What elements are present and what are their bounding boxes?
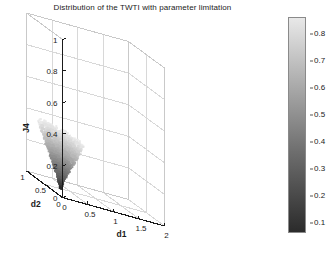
colorbar-tick: 0.8 — [314, 29, 325, 38]
colorbar-tick: 0.7 — [314, 56, 325, 65]
colorbar-tick-labels: 0.80.70.60.50.40.30.20.1 — [308, 17, 333, 233]
svg-text:0: 0 — [62, 203, 67, 212]
matlab-figure-window: Distribution of the TWTI with parameter … — [0, 0, 333, 264]
svg-text:0.2: 0.2 — [46, 162, 58, 171]
colorbar-tick: 0.2 — [314, 191, 325, 200]
colorbar-gradient — [288, 17, 306, 233]
svg-text:1: 1 — [113, 217, 118, 226]
svg-text:0: 0 — [56, 200, 61, 209]
colorbar-tick-mark — [310, 33, 313, 34]
colorbar-tick-mark — [310, 87, 313, 88]
axes-box-edges — [27, 13, 165, 226]
svg-text:0.6: 0.6 — [46, 99, 58, 108]
svg-text:0.8: 0.8 — [46, 67, 58, 76]
colorbar-tick: 0.3 — [314, 164, 325, 173]
colorbar-tick: 0.1 — [314, 218, 325, 227]
svg-text:d2: d2 — [31, 199, 41, 209]
colorbar-tick-mark — [310, 114, 313, 115]
svg-text:1: 1 — [53, 36, 58, 45]
svg-text:0.4: 0.4 — [46, 130, 58, 139]
grid-lines — [27, 13, 165, 226]
colorbar — [288, 17, 306, 233]
svg-text:0.5: 0.5 — [84, 210, 96, 219]
axes-3d: 00.20.40.60.8100.511.5200.51 d1d2J4 — [0, 0, 333, 264]
colorbar-tick: 0.4 — [314, 137, 325, 146]
colorbar-tick-mark — [310, 195, 313, 196]
colorbar-tick: 0.6 — [314, 83, 325, 92]
svg-text:1.5: 1.5 — [135, 224, 147, 233]
colorbar-tick: 0.5 — [314, 110, 325, 119]
svg-text:d1: d1 — [117, 229, 127, 239]
colorbar-tick-mark — [310, 222, 313, 223]
colorbar-tick-mark — [310, 60, 313, 61]
colorbar-tick-mark — [310, 141, 313, 142]
svg-text:2: 2 — [164, 231, 169, 240]
svg-text:1: 1 — [20, 173, 25, 182]
svg-text:J4: J4 — [22, 123, 32, 133]
colorbar-tick-mark — [310, 168, 313, 169]
svg-text:0.5: 0.5 — [35, 186, 47, 195]
